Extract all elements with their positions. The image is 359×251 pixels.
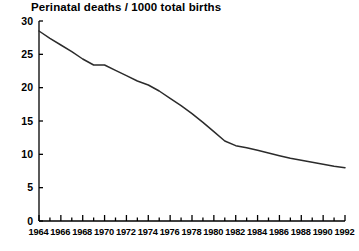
chart-page: Perinatal deaths / 1000 total births 051… bbox=[0, 0, 359, 251]
y-axis bbox=[39, 21, 43, 221]
data-line bbox=[39, 31, 345, 168]
x-axis-tick-label: 1980 bbox=[203, 227, 223, 237]
y-axis-tick-label: 10 bbox=[7, 148, 33, 160]
line-chart-plot bbox=[0, 0, 359, 251]
x-axis-tick-label: 1986 bbox=[269, 227, 289, 237]
x-axis-tick-label: 1970 bbox=[94, 227, 114, 237]
x-axis-tick-label: 1976 bbox=[160, 227, 180, 237]
y-axis-tick-label: 5 bbox=[7, 181, 33, 193]
x-axis-tick-label: 1964 bbox=[29, 227, 49, 237]
x-axis-tick-label: 1982 bbox=[225, 227, 245, 237]
y-axis-tick-label: 15 bbox=[7, 115, 33, 127]
x-axis-tick-label: 1968 bbox=[72, 227, 92, 237]
y-axis-tick-label: 0 bbox=[7, 215, 33, 227]
x-axis-tick-label: 1990 bbox=[313, 227, 333, 237]
x-axis-tick-label: 1984 bbox=[247, 227, 267, 237]
y-axis-tick-label: 30 bbox=[7, 15, 33, 27]
x-axis-tick-label: 1992 bbox=[335, 227, 355, 237]
x-axis-tick-label: 1978 bbox=[182, 227, 202, 237]
y-axis-tick-label: 25 bbox=[7, 48, 33, 60]
x-axis-tick-label: 1966 bbox=[50, 227, 70, 237]
x-axis-tick-label: 1988 bbox=[291, 227, 311, 237]
x-axis bbox=[39, 215, 345, 221]
x-axis-tick-label: 1974 bbox=[138, 227, 158, 237]
data-series-group bbox=[39, 31, 345, 168]
y-axis-tick-label: 20 bbox=[7, 81, 33, 93]
x-axis-tick-label: 1972 bbox=[116, 227, 136, 237]
